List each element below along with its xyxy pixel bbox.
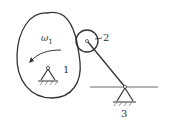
cam-label: 1 (63, 65, 69, 75)
ground-pivot-label: 3 (121, 109, 127, 119)
roller-leader (95, 38, 102, 39)
ground-pivot (113, 86, 136, 107)
rotation-arrow (31, 50, 61, 61)
follower-arm (88, 42, 125, 87)
mechanism-drawing (0, 0, 169, 126)
roller-label: 2 (103, 33, 109, 43)
arrow-head-icon (29, 57, 34, 63)
cam-outline (17, 12, 80, 98)
omega-label: ω1 (41, 34, 53, 46)
cam-pivot (38, 66, 58, 85)
